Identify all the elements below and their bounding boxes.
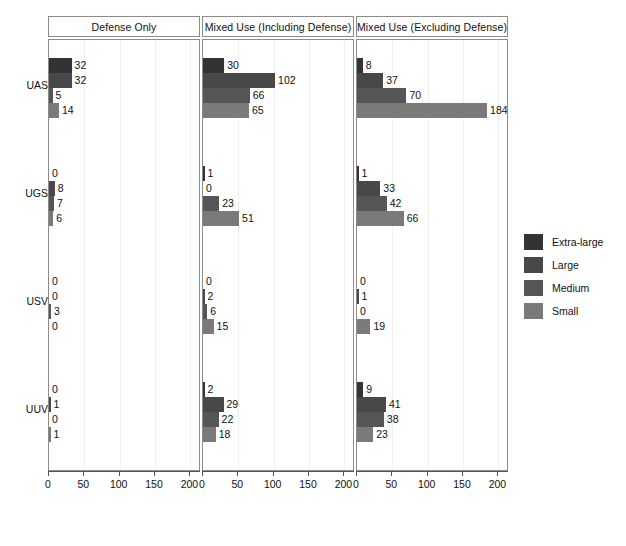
bar-value-label: 22	[219, 412, 234, 427]
bar-uas-extra-large	[203, 58, 224, 73]
x-axis: 050100150200	[356, 471, 508, 496]
bar-value-label: 32	[72, 73, 87, 88]
bar-uuv-large	[203, 397, 224, 412]
legend-item-large[interactable]: Large	[524, 254, 622, 275]
x-axis-tick	[462, 471, 463, 476]
legend-swatch-icon	[524, 280, 543, 296]
legend-item-extra-large[interactable]: Extra-large	[524, 231, 622, 252]
x-axis-tick	[83, 471, 84, 476]
x-axis-tick	[308, 471, 309, 476]
x-axis-tick	[427, 471, 428, 476]
bar-value-label: 51	[239, 211, 254, 226]
x-axis-tick-label: 50	[386, 478, 398, 490]
x-axis-tick	[391, 471, 392, 476]
bar-value-label: 32	[72, 58, 87, 73]
x-axis-tick-label: 100	[110, 478, 128, 490]
legend-label: Large	[552, 259, 579, 271]
x-axis-tick	[497, 471, 498, 476]
bar-ugs-small	[203, 211, 239, 226]
legend-swatch-icon	[524, 303, 543, 319]
x-axis-tick	[154, 471, 155, 476]
bar-uas-medium	[357, 88, 406, 103]
plot-area: 3232514087600300101	[48, 39, 200, 471]
chart-root: Defense Only3232514087600300101050100150…	[0, 0, 626, 546]
legend-label: Small	[552, 305, 578, 317]
bar-ugs-large	[357, 181, 380, 196]
bar-value-label: 1	[359, 166, 368, 181]
category-label-ugs: UGS	[6, 187, 48, 199]
bar-value-label: 2	[205, 382, 214, 397]
x-axis-tick-label: 50	[232, 478, 244, 490]
x-axis-tick-label: 100	[264, 478, 282, 490]
bar-value-label: 8	[55, 181, 64, 196]
x-axis-tick	[189, 471, 190, 476]
bar-value-label: 0	[49, 382, 58, 397]
bar-value-label: 8	[363, 58, 372, 73]
bar-value-label: 23	[219, 196, 234, 211]
bar-value-label: 0	[49, 166, 58, 181]
bar-uas-small	[49, 103, 59, 118]
bar-value-label: 1	[359, 289, 368, 304]
bar-ugs-small	[357, 211, 404, 226]
x-axis-tick-label: 200	[335, 478, 353, 490]
x-axis-tick-label: 200	[489, 478, 507, 490]
gridline	[84, 40, 85, 470]
x-axis-tick	[237, 471, 238, 476]
category-label-uas: UAS	[6, 79, 48, 91]
bar-value-label: 14	[59, 103, 74, 118]
legend-item-small[interactable]: Small	[524, 300, 622, 321]
x-axis-tick	[273, 471, 274, 476]
x-axis-tick-label: 0	[353, 478, 359, 490]
bar-uas-extra-large	[49, 58, 72, 73]
bar-value-label: 0	[49, 289, 58, 304]
plot-area: 837701841334266010199413823	[356, 39, 508, 471]
bar-value-label: 1	[51, 427, 60, 442]
legend-label: Medium	[552, 282, 589, 294]
bar-value-label: 7	[54, 196, 63, 211]
legend-item-medium[interactable]: Medium	[524, 277, 622, 298]
bar-uas-large	[49, 73, 72, 88]
legend: Extra-largeLargeMediumSmall	[524, 231, 622, 323]
bar-value-label: 29	[224, 397, 239, 412]
bar-value-label: 70	[406, 88, 421, 103]
x-axis-tick-label: 200	[181, 478, 199, 490]
bar-usv-small	[203, 319, 214, 334]
bar-value-label: 19	[370, 319, 385, 334]
legend-swatch-icon	[524, 257, 543, 273]
x-axis-tick	[48, 471, 49, 476]
bar-uuv-medium	[357, 412, 384, 427]
bar-uas-small	[357, 103, 487, 118]
panel-3: Mixed Use (Excluding Defense)83770184133…	[356, 16, 508, 496]
bar-uuv-small	[357, 427, 373, 442]
bar-value-label: 37	[383, 73, 398, 88]
bar-value-label: 1	[205, 166, 214, 181]
plot-area: 301026665102351026152292218	[202, 39, 354, 471]
bar-value-label: 41	[386, 397, 401, 412]
bar-value-label: 65	[249, 103, 264, 118]
x-axis-line	[48, 471, 200, 472]
bar-value-label: 15	[214, 319, 229, 334]
gridline	[309, 40, 310, 470]
bar-value-label: 0	[203, 181, 212, 196]
bar-value-label: 0	[49, 412, 58, 427]
bar-value-label: 9	[363, 382, 372, 397]
gridline	[274, 40, 275, 470]
bar-uas-large	[203, 73, 275, 88]
x-axis-tick	[343, 471, 344, 476]
bar-value-label: 0	[49, 319, 58, 334]
x-axis-tick-label: 150	[145, 478, 163, 490]
bar-value-label: 66	[250, 88, 265, 103]
bar-value-label: 0	[49, 274, 58, 289]
bar-value-label: 5	[53, 88, 62, 103]
panel-title: Mixed Use (Excluding Defense)	[356, 16, 508, 37]
bar-ugs-medium	[203, 196, 219, 211]
x-axis-tick	[356, 471, 357, 476]
x-axis-tick	[119, 471, 120, 476]
category-label-uuv: UUV	[6, 403, 48, 415]
category-label-usv: USV	[6, 295, 48, 307]
bar-uuv-medium	[203, 412, 219, 427]
bar-value-label: 1	[51, 397, 60, 412]
x-axis-tick-label: 0	[45, 478, 51, 490]
x-axis-line	[202, 471, 354, 472]
x-axis: 050100150200	[48, 471, 200, 496]
